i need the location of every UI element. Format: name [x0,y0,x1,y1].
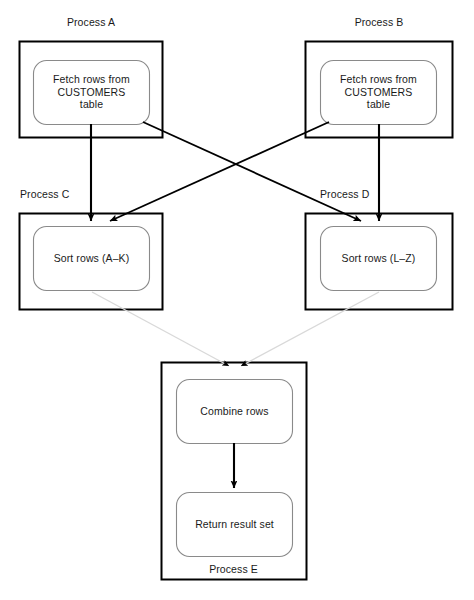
node-combine-label: Combine rows [176,405,293,418]
connector-d-to-e [241,292,379,366]
process-e-label: Process E [161,563,306,575]
process-d-label: Process D [320,188,369,200]
connector-c-to-e [92,292,229,366]
node-sort-d-label: Sort rows (L–Z) [320,252,437,265]
process-c-label: Process C [20,188,69,200]
diagram-canvas: Process A Process B Process C Process D … [0,0,474,600]
node-sort-c-label: Sort rows (A–K) [33,252,150,265]
process-b-label: Process B [305,16,453,28]
node-fetch-a-label: Fetch rows from CUSTOMERS table [33,73,150,111]
process-a-label: Process A [19,16,163,28]
node-return-label: Return result set [176,518,293,531]
node-fetch-b-label: Fetch rows from CUSTOMERS table [320,73,437,111]
